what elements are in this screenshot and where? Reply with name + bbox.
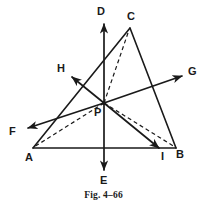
label-A: A: [25, 152, 33, 163]
dashed-PC: [104, 30, 129, 103]
label-I: I: [161, 151, 164, 162]
label-B: B: [176, 149, 184, 160]
label-D: D: [97, 6, 105, 17]
vector-PG: [104, 76, 182, 103]
label-F: F: [9, 126, 16, 137]
label-G: G: [188, 66, 197, 77]
figure-container: A B C D E F G H I P Fig. 4–66: [0, 0, 207, 217]
label-C: C: [127, 11, 135, 22]
point-P-marker: [102, 101, 106, 105]
figure-caption: Fig. 4–66: [0, 190, 207, 200]
label-E: E: [100, 175, 107, 186]
dashed-PB: [104, 103, 175, 147]
label-P: P: [94, 107, 101, 118]
label-H: H: [57, 63, 65, 74]
vector-PI: [104, 103, 159, 148]
side-AC: [33, 28, 130, 148]
